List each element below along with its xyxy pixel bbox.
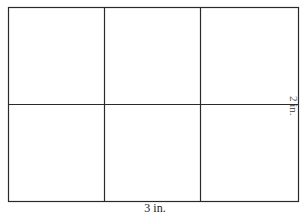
width-label: 3 in.	[0, 201, 304, 214]
grid-diagram	[0, 0, 304, 214]
height-label: 2 in.	[288, 96, 300, 116]
